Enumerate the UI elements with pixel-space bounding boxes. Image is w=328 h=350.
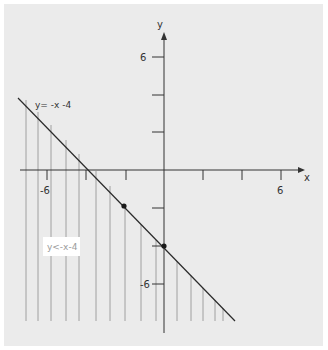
x-tick-label-neg6: -6	[40, 185, 50, 196]
x-tick-label-6: 6	[277, 185, 283, 196]
inequality-graph: y x 6 -6 -6 6 y= -x -4 y<-x-4	[0, 0, 328, 350]
y-tick-label-neg6: -6	[140, 279, 150, 290]
region-inequality-label: y<-x-4	[47, 242, 78, 252]
point-neg2-neg2	[121, 203, 126, 208]
y-axis-label: y	[157, 19, 163, 30]
y-axis-arrow-icon	[161, 32, 167, 40]
point-0-neg4	[161, 243, 166, 248]
x-axis-label: x	[304, 172, 310, 183]
x-axis	[20, 170, 300, 180]
y-axis	[152, 38, 164, 333]
line-equation-label: y= -x -4	[35, 100, 71, 110]
shaded-region-hatch	[26, 100, 223, 321]
y-tick-label-6: 6	[140, 52, 146, 63]
